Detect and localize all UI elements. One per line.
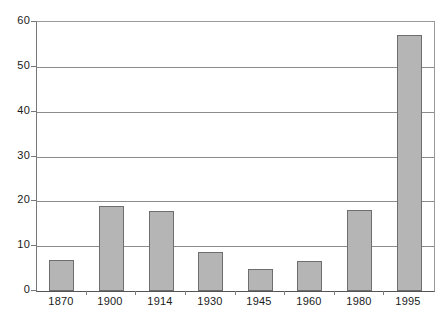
x-axis-tick — [383, 291, 384, 295]
bar — [99, 206, 124, 291]
x-axis-tick — [185, 291, 186, 295]
y-axis: 0102030405060 — [0, 0, 30, 313]
y-axis-tick — [31, 111, 36, 112]
x-axis-label: 1914 — [147, 295, 172, 308]
x-axis-label: 1930 — [197, 295, 222, 308]
y-axis-tick — [31, 245, 36, 246]
y-axis-label: 60 — [2, 15, 30, 26]
gridline — [37, 112, 434, 113]
y-axis-label: 40 — [2, 105, 30, 116]
y-axis-tick — [31, 66, 36, 67]
x-axis-label: 1980 — [346, 295, 371, 308]
x-axis-tick — [284, 291, 285, 295]
y-axis-tick — [31, 290, 36, 291]
bar — [297, 261, 322, 291]
y-axis-label: 50 — [2, 60, 30, 71]
gridline — [37, 201, 434, 202]
y-axis-label: 10 — [2, 239, 30, 250]
bar — [347, 210, 372, 291]
x-axis-tick — [235, 291, 236, 295]
bar — [198, 252, 223, 291]
y-axis-tick — [31, 156, 36, 157]
y-axis-tick — [31, 200, 36, 201]
bar-chart: 0102030405060 18701900191419301945196019… — [0, 0, 443, 313]
y-axis-label: 30 — [2, 150, 30, 161]
bar — [248, 269, 273, 291]
x-axis-tick — [334, 291, 335, 295]
bar — [149, 211, 174, 291]
plot-area — [36, 21, 435, 292]
x-axis-tick — [86, 291, 87, 295]
x-axis-label: 1870 — [48, 295, 73, 308]
gridline — [37, 67, 434, 68]
bar — [397, 35, 422, 291]
gridline — [37, 246, 434, 247]
y-axis-label: 0 — [2, 284, 30, 295]
x-axis-label: 1945 — [246, 295, 271, 308]
x-axis-tick — [135, 291, 136, 295]
gridline — [37, 157, 434, 158]
y-axis-tick — [31, 21, 36, 22]
x-axis-label: 1960 — [296, 295, 321, 308]
x-axis-label: 1995 — [395, 295, 420, 308]
bar — [49, 260, 74, 291]
y-axis-label: 20 — [2, 194, 30, 205]
x-axis-label: 1900 — [97, 295, 122, 308]
